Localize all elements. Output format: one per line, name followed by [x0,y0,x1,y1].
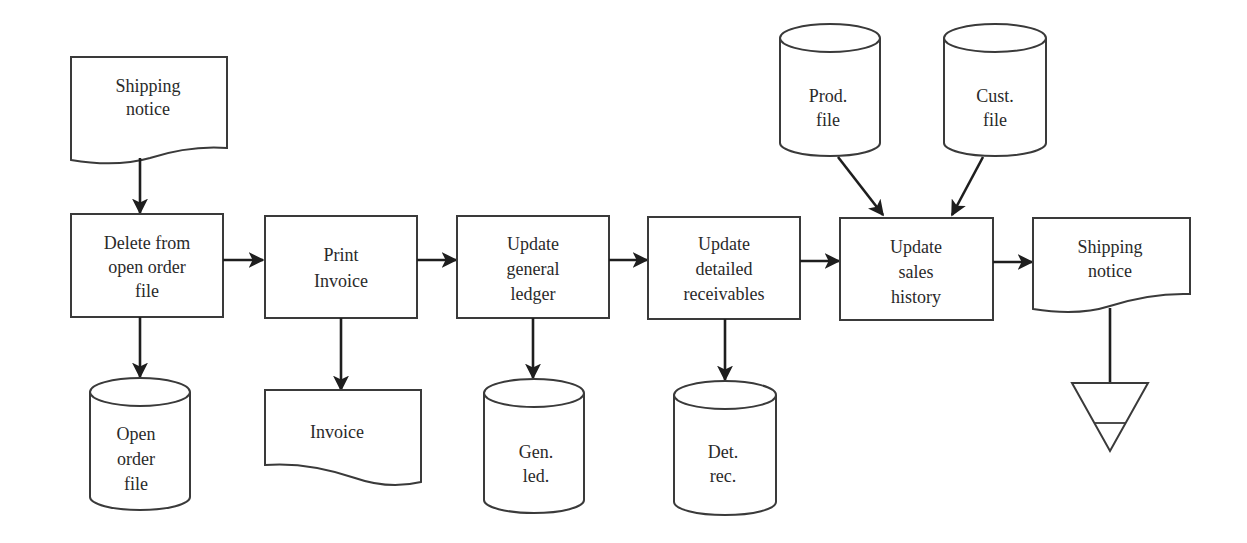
disk-label-line: Det. [708,442,739,462]
open-order-file-disk: Open order file [90,378,190,510]
process-update-detailed-receivables: Update detailed receivables [648,217,800,319]
process-label-line: history [891,287,941,307]
process-label-line: Update [890,237,942,257]
arrow-prod-file-to-p5 [838,157,883,215]
process-label-line: Update [698,234,750,254]
disk-label-line: file [816,110,840,130]
doc-label-line: Shipping [1077,237,1142,257]
process-label-line: ledger [511,284,556,304]
process-label-line: detailed [696,259,753,279]
svg-text:notice: notice [126,99,170,119]
process-label-line: Print [323,245,358,265]
shipping-notice-input-document: Shipping notice [71,57,227,164]
doc-label-line: Shipping [115,76,180,96]
invoice-document: Invoice [265,390,421,485]
disk-label-line: order [117,449,155,469]
process-update-sales-history: Update sales history [840,218,993,320]
process-label-line: Invoice [314,271,368,291]
process-update-general-ledger: Update general ledger [457,216,609,318]
disk-label-line: Gen. [519,442,554,462]
detailed-receivables-disk: Det. rec. [674,381,776,515]
process-label-line: file [135,281,159,301]
disk-label-line: led. [523,466,550,486]
process-print-invoice: Print Invoice [265,216,417,318]
doc-label-line: notice [1088,261,1132,281]
svg-text:notice: notice [1088,261,1132,281]
process-delete-from-open-order-file: Delete from open order file [71,214,223,317]
doc-label-line: notice [126,99,170,119]
process-label-line: sales [899,262,934,282]
disk-label-line: Cust. [976,86,1014,106]
process-label-line: Delete from [104,233,190,253]
process-label-line: Update [507,234,559,254]
disk-label-line: Prod. [809,86,848,106]
process-label-line: receivables [684,284,765,304]
arrow-cust-file-to-p5 [952,157,983,215]
shipping-notice-output-document: Shipping notice [1033,218,1190,312]
disk-label-line: Open [117,424,156,444]
process-label-line: general [507,259,560,279]
disk-label-line: file [124,474,148,494]
customer-file-disk: Cust. file [944,24,1046,156]
document-label: Invoice [310,422,364,442]
offline-file-triangle-icon [1072,383,1148,451]
svg-text:Shipping: Shipping [1077,237,1142,257]
general-ledger-disk: Gen. led. [484,379,584,513]
disk-label-line: rec. [710,466,736,486]
flowchart: Shipping notice Delete from open order f… [0,0,1247,543]
disk-label-line: file [983,110,1007,130]
process-label-line: open order [108,257,185,277]
svg-text:Shipping: Shipping [115,76,180,96]
product-file-disk: Prod. file [780,24,880,156]
